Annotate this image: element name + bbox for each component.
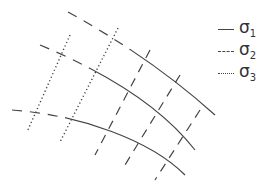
legend-item-sigma2: σ2: [218, 40, 256, 62]
sigma1-curve: [12, 110, 185, 175]
legend-label-sigma1: σ1: [239, 19, 256, 39]
dashed-line-icon: [218, 51, 234, 52]
sigma2-line: [95, 50, 150, 155]
sigma2-line: [125, 75, 180, 165]
legend-label-sigma3: σ3: [239, 63, 256, 83]
sigma3-line: [27, 35, 70, 132]
legend-label-sigma2: σ2: [239, 41, 256, 61]
solid-line-icon: [218, 29, 234, 30]
sigma1-curve-dashed-part: [12, 110, 185, 175]
legend-item-sigma3: σ3: [218, 62, 256, 84]
dotted-line-icon: [218, 73, 234, 74]
sigma2-dashed-lines: [95, 50, 200, 180]
legend-item-sigma1: σ1: [218, 18, 256, 40]
sigma2-line: [155, 110, 200, 180]
legend: σ1 σ2 σ3: [218, 18, 256, 84]
sigma3-line: [60, 28, 118, 142]
sigma1-solid-curves: [12, 12, 215, 175]
